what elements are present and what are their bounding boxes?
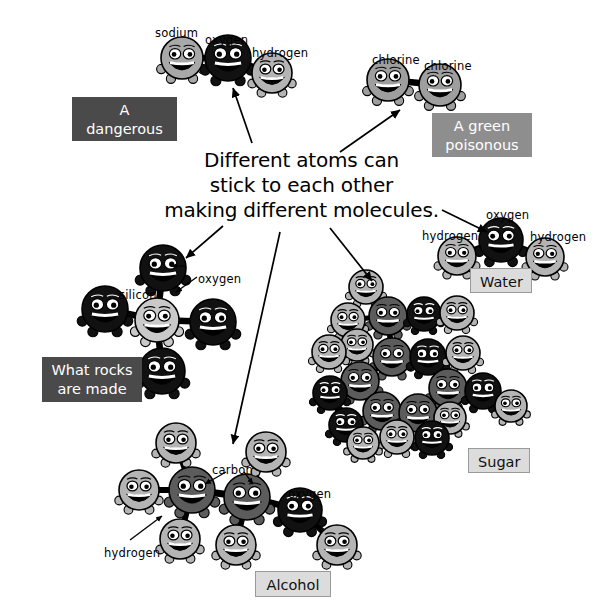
arrow-to-chlorine-gas xyxy=(340,110,400,152)
chlorine-label-left: chlorine xyxy=(372,53,420,67)
atom-sodium xyxy=(157,37,208,83)
arrow-to-sugar xyxy=(330,228,372,281)
silicon-label-silica: silicon xyxy=(119,288,157,302)
atom-oxygen xyxy=(134,348,190,399)
hydrogen-label-nacl: hydrogen xyxy=(252,46,308,60)
molecule-canvas xyxy=(0,0,603,615)
hydrogen-label-water-right: hydrogen xyxy=(530,230,586,244)
atom-hydrogen xyxy=(156,519,204,563)
sodium-label-nacl: sodium xyxy=(155,26,198,40)
caption-sugar: Sugar xyxy=(468,448,530,473)
oxygen-label-nacl: oxygen xyxy=(205,33,248,47)
page-title: Different atoms can stick to each other … xyxy=(0,148,603,223)
carbon-label-alcohol: carbon xyxy=(212,463,253,477)
arrow-to-sodium-hydroxide xyxy=(233,88,252,143)
atom-oxygen xyxy=(185,299,241,350)
headline-line-3: making different molecules. xyxy=(0,198,603,223)
arrow-to-alcohol xyxy=(233,232,280,444)
oxygen-label-silica: oxygen xyxy=(198,272,241,286)
caption-dangerous-chemical: A dangerous chemical xyxy=(72,97,177,141)
caption-green-poisonous-gas: A green poisonous gas xyxy=(432,113,532,157)
pointer-hydrogen-alcohol xyxy=(130,516,162,540)
atom-silicon xyxy=(130,298,183,347)
arrow-to-silicon-dioxide xyxy=(186,226,223,258)
atom-oxygen xyxy=(474,218,527,267)
chlorine-label-right: chlorine xyxy=(424,59,472,73)
atom-hydrogen xyxy=(152,423,200,467)
molecule-diagram-page: sodiumoxygenhydrogenchlorinechlorineoxyg… xyxy=(0,0,603,615)
hydrogen-label-alcohol: hydrogen xyxy=(104,546,160,560)
atom-hydrogen xyxy=(212,525,260,569)
caption-water: Water xyxy=(470,268,532,293)
atom-hydrogen xyxy=(115,470,163,514)
atom-carbon xyxy=(219,474,275,525)
oxygen-label-alcohol: oxygen xyxy=(288,487,331,501)
caption-alcohol: Alcohol xyxy=(255,571,331,597)
hydrogen-label-water-left: hydrogen xyxy=(422,229,478,243)
atom-hydrogen xyxy=(436,296,477,334)
headline-line-2: stick to each other xyxy=(0,173,603,198)
caption-what-rocks-are-made-of: What rocks are made of xyxy=(42,357,142,402)
